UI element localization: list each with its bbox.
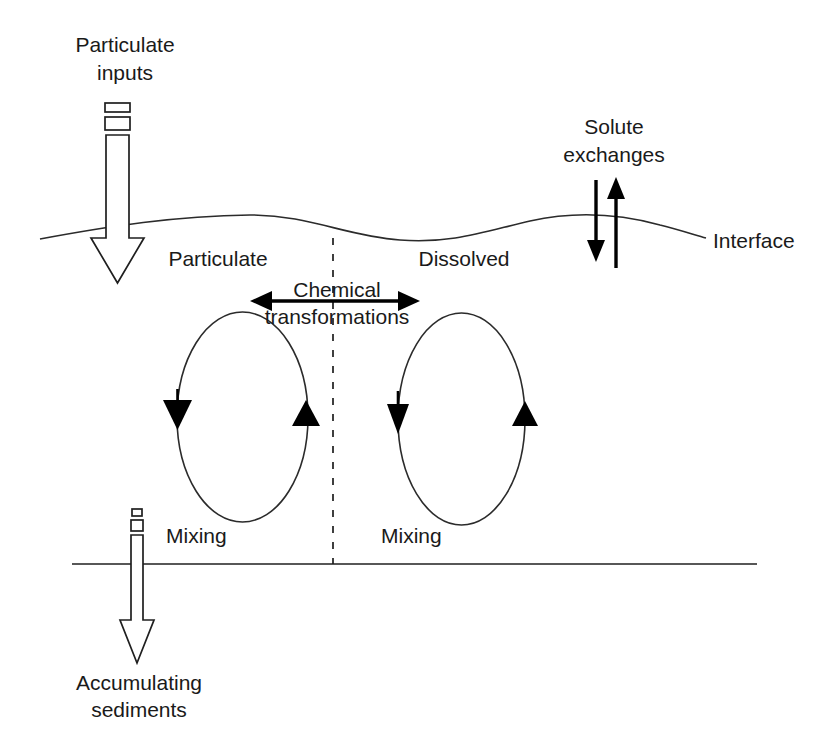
interface-curve [40, 215, 706, 241]
particulate-inputs-arrow-segment-mid [105, 117, 130, 130]
accumulating-sediments-arrow-segment-top [132, 509, 142, 516]
particulate-phase-label: Particulate [168, 247, 267, 270]
solute-down-arrow-head [587, 240, 605, 262]
solute-up-arrow-head [607, 177, 625, 199]
diagram-canvas: Particulate inputs Solute exchanges Inte… [0, 0, 826, 742]
particulate-inputs-arrow [91, 135, 144, 283]
particulate-inputs-label-line2: inputs [97, 61, 153, 84]
mixing-loop-right [398, 313, 525, 525]
interface-label: Interface [713, 229, 795, 252]
mixing-label-right: Mixing [381, 524, 442, 547]
accumulating-sediments-label-line1: Accumulating [76, 671, 202, 694]
diagram-svg: Particulate inputs Solute exchanges Inte… [0, 0, 826, 742]
accumulating-sediments-label-line2: sediments [91, 698, 187, 721]
mixing-loop-right-up-head [512, 401, 538, 426]
chemical-transformations-label-line1: Chemical [293, 278, 381, 301]
particulate-inputs-label-line1: Particulate [75, 33, 174, 56]
dissolved-phase-label: Dissolved [418, 247, 509, 270]
mixing-loop-left-up-head [292, 400, 320, 426]
mixing-loop-right-down-head [387, 404, 409, 434]
mixing-label-left: Mixing [166, 524, 227, 547]
mixing-loop-left [177, 312, 308, 522]
solute-exchanges-label-line2: exchanges [563, 143, 665, 166]
chemical-transformations-label-line2: transformations [265, 305, 410, 328]
accumulating-sediments-arrow-segment-mid [131, 520, 143, 531]
solute-exchanges-label-line1: Solute [584, 115, 644, 138]
particulate-inputs-arrow-segment-top [105, 103, 130, 112]
mixing-loop-left-down-head [163, 400, 192, 430]
accumulating-sediments-arrow [120, 535, 154, 663]
